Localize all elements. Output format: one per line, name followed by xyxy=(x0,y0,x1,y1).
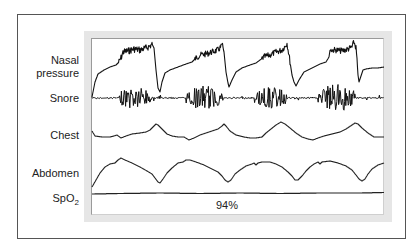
trace-nasal-pressure xyxy=(92,41,384,97)
trace-chest xyxy=(92,122,384,140)
trace-spo2 xyxy=(92,193,384,195)
trace-abdomen xyxy=(92,158,384,187)
signal-traces xyxy=(0,0,419,244)
trace-snore xyxy=(92,85,384,111)
